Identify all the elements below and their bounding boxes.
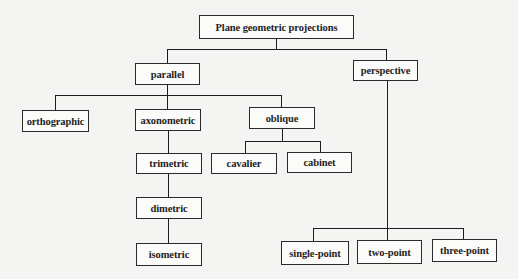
projection-taxonomy-diagram: Plane geometric projections parallel per…	[0, 0, 518, 279]
connector-trimetric-dimetric	[168, 174, 169, 197]
node-single-point: single-point	[281, 241, 349, 265]
connector-to-three-point	[463, 228, 464, 239]
node-isometric: isometric	[136, 243, 202, 266]
node-axonometric: axonometric	[135, 109, 201, 131]
connector-to-orthographic	[55, 95, 56, 110]
connector-to-cabinet	[320, 141, 321, 152]
connector-to-parallel	[167, 49, 168, 63]
connector-oblique-bar	[245, 141, 320, 142]
connector-to-oblique	[281, 95, 282, 107]
connector-root-down	[276, 39, 277, 49]
node-orthographic: orthographic	[22, 110, 89, 132]
node-oblique: oblique	[249, 107, 315, 129]
connector-parallel-bar	[55, 95, 282, 96]
connector-root-bar	[167, 49, 387, 50]
connector-dimetric-isometric	[168, 219, 169, 243]
connector-parallel-down	[167, 85, 168, 109]
node-plane-geometric-projections: Plane geometric projections	[199, 15, 354, 39]
node-three-point: three-point	[432, 239, 497, 262]
node-cavalier: cavalier	[211, 153, 277, 174]
node-dimetric: dimetric	[136, 197, 202, 219]
node-cabinet: cabinet	[287, 152, 352, 173]
connector-perspective-down	[387, 81, 388, 240]
node-two-point: two-point	[357, 240, 422, 264]
node-parallel: parallel	[135, 63, 200, 85]
node-trimetric: trimetric	[136, 153, 202, 174]
connector-perspective-bar	[313, 228, 464, 229]
connector-axonometric-trimetric	[168, 131, 169, 153]
connector-oblique-down	[282, 129, 283, 141]
connector-to-single-point	[313, 228, 314, 241]
connector-to-cavalier	[245, 141, 246, 153]
node-perspective: perspective	[353, 60, 418, 81]
connector-to-perspective	[386, 49, 387, 60]
